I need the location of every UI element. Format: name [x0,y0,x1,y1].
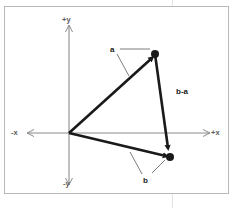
vector-b-minus-a [155,54,168,148]
vector-label-b-minus-a: b-a [176,88,188,96]
diagram-canvas: a b b-a +y -y -x +x [0,0,235,208]
vector-a [69,50,159,133]
axis-label-negative-y: -y [63,180,70,188]
axis-label-negative-x: -x [11,129,18,137]
vector-b [69,133,174,161]
vector-diagram [0,0,235,208]
vector-label-a: a [110,46,114,54]
axis-label-positive-y: +y [62,16,71,24]
leader-line-a [117,49,150,76]
vector-label-b: b [143,177,148,185]
axis-label-positive-x: +x [211,129,220,137]
